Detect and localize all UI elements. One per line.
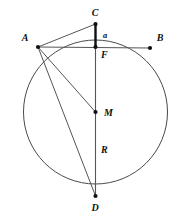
vertex-dot-f <box>93 45 97 49</box>
chord-ac-line <box>38 24 96 47</box>
segment-am-line <box>38 47 96 112</box>
vertex-dot-c <box>93 22 97 26</box>
point-label-a: A <box>21 32 29 43</box>
geometry-figure: A B C F M D a R <box>0 0 184 217</box>
vertex-dot-d <box>93 194 97 198</box>
segment-label-r: R <box>100 144 108 155</box>
vertex-dot-m <box>93 110 97 114</box>
chord-ad-line <box>38 47 96 196</box>
geometry-diagram: A B C F M D a R <box>0 0 184 217</box>
vertex-dot-b <box>148 46 152 50</box>
point-label-d: D <box>90 202 98 213</box>
point-label-f: F <box>100 49 108 60</box>
point-label-m: M <box>103 107 114 118</box>
vertex-dot-a <box>36 45 40 49</box>
segment-label-a: a <box>103 30 108 40</box>
point-label-c: C <box>92 7 99 18</box>
point-label-b: B <box>156 32 164 43</box>
